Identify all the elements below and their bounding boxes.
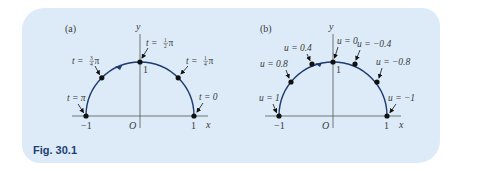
tick-pos1: 1: [384, 120, 389, 131]
point-u-0: [330, 59, 335, 64]
svg-text:1: 1: [204, 55, 207, 61]
pointer-arrow-icon: [356, 50, 360, 60]
point-u-04: [309, 61, 314, 66]
point-t-pi: [83, 113, 88, 118]
svg-text:t =: t =: [146, 38, 157, 48]
tick-pos1: 1: [191, 120, 196, 131]
point-u-neg1: [384, 113, 389, 118]
pointer-arrow-icon: [379, 68, 382, 78]
svg-text:1: 1: [164, 37, 167, 43]
figure-caption: Fig. 30.1: [33, 144, 77, 156]
label-u-1: u = 1: [259, 93, 280, 103]
label-t-3quarter: t = 3 4 π: [72, 55, 100, 68]
panel-b: (b) y x O −1 1 1 u = −1 u = −0.8 u = −0.…: [259, 21, 415, 131]
tick-neg1: −1: [274, 120, 285, 131]
y-axis-label: y: [328, 21, 334, 32]
point-t-half: [137, 59, 142, 64]
label-u-08: u = 0.8: [260, 59, 288, 69]
label-t-pi: t = π: [67, 93, 86, 103]
pointer-arrow-icon: [335, 47, 339, 58]
x-axis-label: x: [398, 119, 404, 130]
pointer-arrow-icon: [181, 66, 188, 74]
panel-a-label: (a): [65, 23, 76, 35]
svg-text:π: π: [209, 56, 214, 66]
panel-a: (a) y x O −1 1 1 t = 0 t = 1 4: [65, 21, 218, 131]
point-u-neg08: [374, 79, 379, 84]
svg-text:3: 3: [90, 55, 93, 61]
pointer-arrow-icon: [390, 104, 396, 113]
pointer-arrow-icon: [78, 104, 84, 113]
origin-label: O: [322, 120, 329, 131]
label-u-neg1: u = −1: [388, 93, 415, 103]
svg-text:4: 4: [204, 61, 207, 67]
tick-y1: 1: [336, 64, 341, 75]
x-axis-label: x: [205, 119, 211, 130]
label-u-neg04: u = −0.4: [357, 39, 391, 49]
pointer-arrow-icon: [307, 54, 310, 61]
pointer-arrow-icon: [142, 48, 148, 58]
panel-b-label: (b): [260, 23, 272, 35]
svg-text:t =: t =: [186, 56, 197, 66]
point-u-1: [276, 113, 281, 118]
point-t0: [191, 113, 196, 118]
tick-neg1: −1: [81, 120, 92, 131]
pointer-arrow-icon: [95, 66, 100, 75]
pointer-arrow-icon: [197, 103, 203, 112]
origin-label: O: [129, 120, 136, 131]
y-axis-label: y: [135, 21, 141, 32]
label-u-0: u = 0: [337, 36, 358, 46]
svg-text:t =: t =: [72, 56, 83, 66]
point-u-08: [288, 79, 293, 84]
svg-text:4: 4: [90, 61, 93, 67]
svg-text:π: π: [169, 38, 174, 48]
label-t-quarter: t = 1 4 π: [186, 55, 214, 68]
pointer-arrow-icon: [273, 104, 277, 113]
tick-y1: 1: [143, 64, 148, 75]
svg-text:π: π: [95, 56, 100, 66]
label-u-04: u = 0.4: [284, 43, 312, 53]
svg-text:2: 2: [164, 43, 167, 49]
label-u-neg08: u = −0.8: [376, 57, 410, 67]
point-u-neg04: [352, 61, 357, 66]
label-t-half: t = 1 2 π: [146, 37, 174, 50]
point-t-quarter: [176, 75, 181, 80]
label-t0: t = 0: [199, 92, 218, 102]
pointer-arrow-icon: [286, 70, 289, 78]
point-t-3quarter: [99, 75, 104, 80]
